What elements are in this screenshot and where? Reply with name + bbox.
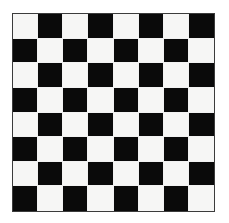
- checkerboard-square-dark-r2c1: [13, 39, 38, 64]
- checkerboard-square-light-r2c6: [139, 39, 164, 64]
- checkerboard-square-dark-r8c1: [13, 186, 38, 211]
- checkerboard-square-dark-r8c7: [164, 186, 189, 211]
- checkerboard-square-light-r6c4: [88, 137, 113, 162]
- checkerboard-square-light-r2c2: [38, 39, 63, 64]
- checkerboard-square-dark-r5c6: [139, 113, 164, 138]
- checkerboard-square-light-r4c4: [88, 88, 113, 113]
- checkerboard-square-dark-r3c8: [189, 63, 214, 88]
- checkerboard-square-light-r2c4: [88, 39, 113, 64]
- checkerboard-square-light-r5c5: [114, 113, 139, 138]
- checkerboard-square-light-r4c8: [189, 88, 214, 113]
- checkerboard-square-light-r6c8: [189, 137, 214, 162]
- checkerboard-square-light-r4c2: [38, 88, 63, 113]
- checkerboard-square-dark-r8c5: [114, 186, 139, 211]
- checkerboard-square-dark-r2c5: [114, 39, 139, 64]
- checkerboard-square-light-r7c3: [63, 162, 88, 187]
- checkerboard-square-dark-r7c4: [88, 162, 113, 187]
- checkerboard-square-dark-r3c4: [88, 63, 113, 88]
- checkerboard-square-dark-r1c4: [88, 14, 113, 39]
- checkerboard-square-light-r5c7: [164, 113, 189, 138]
- checkerboard-square-dark-r5c8: [189, 113, 214, 138]
- checkerboard-square-dark-r7c8: [189, 162, 214, 187]
- checkerboard-square-dark-r3c2: [38, 63, 63, 88]
- checkerboard-square-light-r5c3: [63, 113, 88, 138]
- checkerboard-square-light-r2c8: [189, 39, 214, 64]
- checkerboard-square-light-r6c6: [139, 137, 164, 162]
- checkerboard-square-dark-r2c3: [63, 39, 88, 64]
- checkerboard-square-light-r3c3: [63, 63, 88, 88]
- checkerboard-square-light-r1c3: [63, 14, 88, 39]
- image-canvas: [0, 0, 229, 223]
- checkerboard-grid: [13, 14, 214, 211]
- checkerboard-square-dark-r1c2: [38, 14, 63, 39]
- checkerboard-square-light-r7c5: [114, 162, 139, 187]
- checkerboard-square-light-r1c1: [13, 14, 38, 39]
- checkerboard-square-dark-r6c5: [114, 137, 139, 162]
- checkerboard-square-dark-r6c3: [63, 137, 88, 162]
- checkerboard-square-light-r3c7: [164, 63, 189, 88]
- checkerboard-border: [12, 13, 215, 212]
- checkerboard-square-dark-r2c7: [164, 39, 189, 64]
- checkerboard-square-dark-r6c1: [13, 137, 38, 162]
- checkerboard-square-light-r4c6: [139, 88, 164, 113]
- checkerboard-square-light-r8c2: [38, 186, 63, 211]
- checkerboard-square-dark-r8c3: [63, 186, 88, 211]
- checkerboard-square-light-r8c4: [88, 186, 113, 211]
- checkerboard-square-light-r1c5: [114, 14, 139, 39]
- checkerboard-square-light-r3c5: [114, 63, 139, 88]
- checkerboard-square-light-r7c1: [13, 162, 38, 187]
- checkerboard-square-dark-r5c4: [88, 113, 113, 138]
- checkerboard-square-dark-r7c6: [139, 162, 164, 187]
- checkerboard-square-dark-r5c2: [38, 113, 63, 138]
- checkerboard-square-light-r5c1: [13, 113, 38, 138]
- checkerboard-square-light-r8c8: [189, 186, 214, 211]
- checkerboard-square-dark-r6c7: [164, 137, 189, 162]
- checkerboard-square-dark-r1c8: [189, 14, 214, 39]
- checkerboard-square-dark-r4c3: [63, 88, 88, 113]
- checkerboard-square-light-r6c2: [38, 137, 63, 162]
- checkerboard-square-light-r1c7: [164, 14, 189, 39]
- checkerboard-square-dark-r4c7: [164, 88, 189, 113]
- checkerboard-square-light-r7c7: [164, 162, 189, 187]
- checkerboard-square-dark-r1c6: [139, 14, 164, 39]
- checkerboard-square-dark-r3c6: [139, 63, 164, 88]
- checkerboard-square-dark-r4c5: [114, 88, 139, 113]
- checkerboard-square-dark-r4c1: [13, 88, 38, 113]
- checkerboard-square-light-r3c1: [13, 63, 38, 88]
- checkerboard-square-dark-r7c2: [38, 162, 63, 187]
- checkerboard-square-light-r8c6: [139, 186, 164, 211]
